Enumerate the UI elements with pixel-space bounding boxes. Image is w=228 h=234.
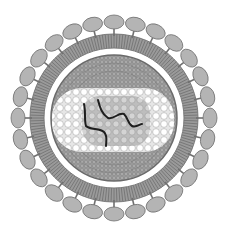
spike-head (11, 85, 29, 108)
spike-head (190, 148, 211, 172)
spike-head (11, 108, 25, 128)
spike-head (124, 203, 147, 221)
spike-head (124, 15, 147, 33)
spike-head (190, 64, 211, 88)
spike-head (17, 148, 38, 172)
spike-head (60, 194, 84, 215)
spike-head (144, 21, 168, 42)
spike-head (17, 64, 38, 88)
spike-head (104, 15, 124, 29)
spike-head (203, 108, 217, 128)
spike-head (11, 128, 29, 151)
spike-head (60, 21, 84, 42)
spike-head (81, 203, 104, 221)
spike-head (199, 85, 217, 108)
spike-head (81, 15, 104, 33)
spike-head (199, 128, 217, 151)
inner-core (82, 96, 150, 146)
spike-head (104, 207, 124, 221)
virus-diagram (0, 0, 228, 234)
spike-head (144, 194, 168, 215)
